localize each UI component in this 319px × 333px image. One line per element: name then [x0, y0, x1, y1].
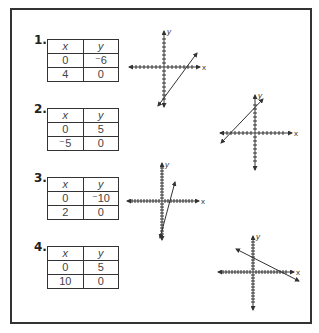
x-label: x: [296, 268, 300, 277]
coordinate-graph-3: [127, 163, 199, 240]
x-label: x: [294, 129, 298, 138]
graph-line: [236, 249, 299, 281]
y-label: y: [164, 160, 170, 169]
y-label: y: [166, 27, 172, 36]
graphs-layer: y x y x y x: [0, 0, 319, 333]
coordinate-graph-1: [129, 31, 200, 107]
x-label: x: [202, 63, 206, 72]
y-label: y: [255, 232, 261, 241]
coordinate-graph-2: [220, 95, 292, 170]
x-label: x: [201, 197, 205, 206]
coordinate-graph-4: [218, 236, 299, 310]
y-label: y: [257, 91, 263, 100]
